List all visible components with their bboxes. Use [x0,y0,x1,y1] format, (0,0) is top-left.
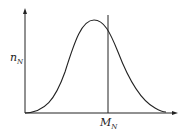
x-axis-marker-label: MN [99,116,118,131]
x-axis-arrow-icon [172,111,178,115]
y-axis-label: nN [10,51,24,66]
y-axis [23,8,27,113]
y-axis-arrow-icon [23,8,27,14]
x-axis [25,111,178,115]
distribution-curve [25,20,166,113]
distribution-diagram: nN MN [0,0,189,135]
